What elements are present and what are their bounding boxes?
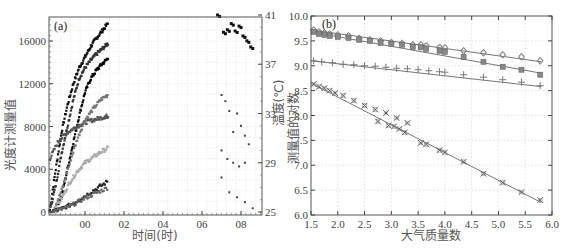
x-tick-label: 6.0 — [545, 218, 559, 230]
x-tick-label: 2.0 — [331, 218, 345, 230]
x-tick-label: 4.5 — [465, 218, 479, 230]
panel-label: (b) — [322, 17, 336, 31]
y-tick-label: 0 — [41, 206, 47, 218]
x-tick-label: 3.0 — [384, 218, 398, 230]
y-tick-label: 8000 — [24, 121, 47, 133]
chart-panel-b: 1.52.02.53.03.54.04.55.05.56.010.09.59.0… — [286, 10, 559, 243]
panel-label: (a) — [54, 19, 67, 33]
x-tick-label: 06 — [197, 218, 209, 230]
x-axis-title: 大气质量数 — [401, 228, 461, 243]
y-tick-label: 9.5 — [294, 35, 308, 47]
y-tick-label: 4000 — [24, 163, 47, 175]
y-axis-right-title: 温度(℃) — [271, 80, 286, 127]
x-tick-label: 2.5 — [358, 218, 372, 230]
y-right-tick-label: 25 — [265, 206, 277, 218]
x-tick-label: 08 — [236, 218, 248, 230]
y-tick-label: 9.0 — [294, 60, 308, 72]
y-tick-label: 16000 — [19, 35, 47, 47]
y-axis-title: 测量值的对数 — [286, 92, 301, 164]
y-axis-title: 光度计测量值 — [3, 99, 18, 171]
x-tick-label: 5.5 — [518, 218, 532, 230]
y-right-tick-label: 41 — [265, 9, 276, 21]
y-tick-label: 6.0 — [294, 209, 308, 221]
chart-panel-a: 000204060816000120008000400004137332925 … — [3, 9, 286, 243]
y-tick-label: 6.5 — [294, 184, 308, 196]
figure: 000204060816000120008000400004137332925 … — [0, 0, 566, 248]
y-right-tick-label: 29 — [265, 157, 277, 169]
x-tick-label: 00 — [80, 218, 92, 230]
x-tick-label: 5.0 — [492, 218, 506, 230]
x-axis-title: 时间(时) — [132, 229, 177, 243]
x-tick-label: 02 — [119, 218, 130, 230]
y-right-tick-label: 37 — [265, 58, 277, 70]
y-tick-label: 10.0 — [289, 10, 309, 22]
y-tick-label: 12000 — [19, 78, 47, 90]
